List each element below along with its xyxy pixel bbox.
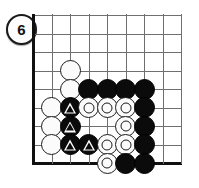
grid-line-vertical <box>181 14 182 164</box>
white-stone[interactable] <box>41 97 62 118</box>
grid-line-vertical <box>163 14 164 164</box>
triangle-mark-inner-icon <box>66 105 74 112</box>
triangle-mark-inner-icon <box>66 124 74 131</box>
triangle-mark-inner-icon <box>66 142 74 149</box>
white-stone-marked-circle[interactable] <box>115 134 136 155</box>
circle-mark-icon <box>83 102 94 113</box>
black-stone[interactable] <box>134 97 155 118</box>
white-stone-marked-circle[interactable] <box>78 97 99 118</box>
grid-line-vertical <box>32 14 35 164</box>
white-stone[interactable] <box>41 134 62 155</box>
white-stone[interactable] <box>60 60 81 81</box>
circle-mark-icon <box>102 102 113 113</box>
triangle-mark-inner-icon <box>85 142 93 149</box>
circle-mark-icon <box>120 121 131 132</box>
circle-mark-icon <box>102 139 113 150</box>
go-diagram-figure: 6 <box>0 0 199 188</box>
black-stone[interactable] <box>115 153 136 174</box>
circle-mark-icon <box>102 158 113 169</box>
white-stone-marked-circle[interactable] <box>115 97 136 118</box>
circle-mark-icon <box>120 102 131 113</box>
black-stone[interactable] <box>134 134 155 155</box>
black-stone-marked-triangle[interactable] <box>78 134 99 155</box>
black-stone[interactable] <box>134 153 155 174</box>
circle-mark-icon <box>120 139 131 150</box>
go-board <box>0 0 199 188</box>
